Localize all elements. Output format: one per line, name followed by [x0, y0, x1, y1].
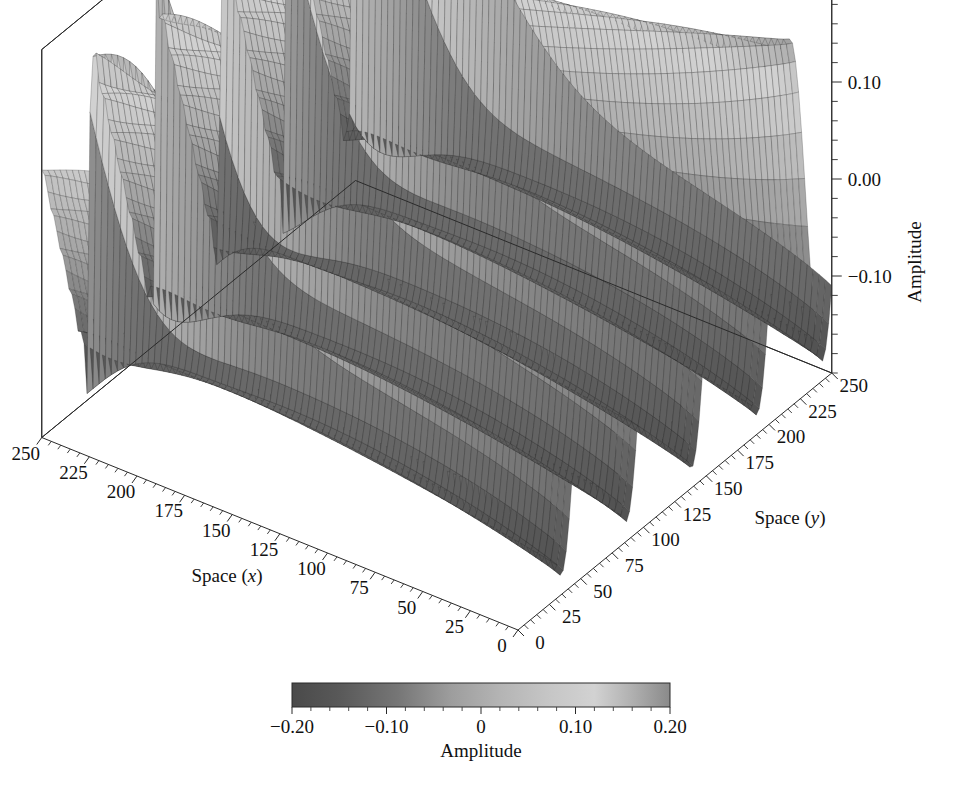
colorbar-tick-label: −0.10 — [365, 716, 409, 737]
y-tick-minor — [606, 558, 610, 562]
x-tick-minor — [353, 565, 356, 569]
colorbar-title: Amplitude — [440, 740, 521, 761]
y-tick-minor — [794, 404, 798, 408]
x-tick-minor — [296, 541, 299, 545]
y-tick-minor — [700, 481, 704, 485]
y-tick-minor — [587, 573, 591, 577]
y-tick-minor — [825, 378, 829, 382]
colorbar-tick-label: 0.20 — [653, 716, 686, 737]
y-tick-label: 200 — [777, 426, 806, 447]
y-tick — [581, 579, 587, 585]
surface-plot-svg: 0255075100125150175200225250025507510012… — [0, 0, 963, 794]
x-tick-minor — [305, 545, 308, 549]
x-tick-minor — [401, 584, 404, 588]
y-tick-minor — [593, 568, 597, 572]
y-axis-title: Space (y) — [754, 507, 825, 529]
y-tick-label: 50 — [593, 581, 612, 602]
colorbar-tick-label: −0.20 — [270, 716, 314, 737]
y-tick-minor — [719, 466, 723, 470]
y-tick-label: 25 — [562, 606, 581, 627]
x-tick-minor — [391, 580, 394, 584]
y-tick — [518, 630, 524, 636]
y-tick-minor — [618, 548, 622, 552]
z-tick-label: 0.10 — [848, 72, 881, 93]
x-tick-label: 175 — [154, 500, 183, 521]
y-tick-minor — [637, 532, 641, 536]
y-tick-label: 175 — [745, 452, 774, 473]
x-tick-minor — [429, 595, 432, 599]
z-tick-label: 0.00 — [848, 169, 881, 190]
figure-container: 0255075100125150175200225250025507510012… — [0, 0, 963, 794]
x-tick-minor — [48, 441, 51, 445]
x-tick-minor — [315, 549, 318, 553]
x-tick-minor — [505, 626, 508, 630]
y-tick — [738, 450, 744, 456]
y-tick-minor — [687, 491, 691, 495]
y-tick-label: 250 — [840, 375, 869, 396]
x-tick-minor — [191, 499, 194, 503]
y-tick-minor — [625, 543, 629, 547]
x-tick-minor — [67, 449, 70, 453]
y-tick-minor — [537, 615, 541, 619]
x-tick-minor — [382, 576, 385, 580]
y-tick-minor — [763, 430, 767, 434]
y-tick-minor — [713, 471, 717, 475]
x-tick-minor — [439, 599, 442, 603]
z-axis-title: Amplitude — [904, 221, 925, 302]
y-tick-label: 225 — [808, 401, 837, 422]
colorbar-tick-label: 0 — [476, 716, 486, 737]
x-tick-label: 225 — [59, 462, 88, 483]
x-tick — [418, 592, 423, 599]
x-tick-minor — [477, 615, 480, 619]
x-tick-label: 250 — [12, 443, 41, 464]
y-tick-minor — [725, 460, 729, 464]
y-tick — [769, 424, 775, 430]
x-tick-label: 0 — [497, 635, 507, 656]
x-tick-minor — [363, 568, 366, 572]
x-tick-minor — [201, 503, 204, 507]
y-tick-minor — [556, 599, 560, 603]
y-tick — [549, 604, 555, 610]
y-tick-label: 150 — [714, 478, 743, 499]
x-tick — [465, 611, 470, 618]
x-tick-minor — [124, 472, 127, 476]
colorbar-tick-labels: −0.20−0.1000.100.20 — [270, 716, 687, 737]
x-tick-minor — [286, 538, 289, 542]
y-tick-label: 0 — [535, 632, 545, 653]
y-tick — [832, 373, 838, 379]
z-tick-label: −0.10 — [848, 266, 892, 287]
y-tick-minor — [568, 589, 572, 593]
y-tick-minor — [750, 440, 754, 444]
x-tick-minor — [344, 561, 347, 565]
y-tick-minor — [731, 455, 735, 459]
x-tick-minor — [163, 488, 166, 492]
y-tick — [644, 527, 650, 533]
y-tick — [612, 553, 618, 559]
y-tick-minor — [694, 486, 698, 490]
y-tick-minor — [562, 594, 566, 598]
x-axis-title: Space (x) — [191, 565, 262, 587]
y-tick-minor — [656, 517, 660, 521]
x-tick-minor — [210, 507, 213, 511]
x-tick-minor — [486, 618, 489, 622]
colorbar-swatch — [292, 683, 670, 707]
x-tick-minor — [58, 445, 61, 449]
x-tick-minor — [115, 468, 118, 472]
y-tick-minor — [650, 522, 654, 526]
x-tick-minor — [258, 526, 261, 530]
y-tick-minor — [788, 409, 792, 413]
x-tick-minor — [105, 464, 108, 468]
x-tick-label: 150 — [202, 520, 231, 541]
y-tick-minor — [775, 419, 779, 423]
x-tick-minor — [96, 461, 99, 465]
y-tick — [800, 399, 806, 405]
x-tick-minor — [153, 484, 156, 488]
x-tick-minor — [410, 588, 413, 592]
x-tick-minor — [334, 557, 337, 561]
x-tick-label: 200 — [107, 481, 136, 502]
x-tick — [513, 630, 518, 637]
y-tick-minor — [574, 584, 578, 588]
x-tick-minor — [77, 453, 80, 457]
y-tick-label: 100 — [651, 529, 680, 550]
x-tick-minor — [239, 518, 242, 522]
